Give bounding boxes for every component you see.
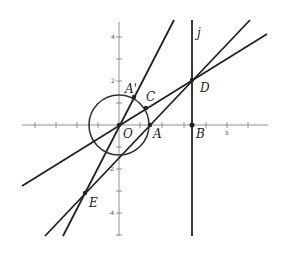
point-e	[83, 191, 87, 195]
label-o: O	[123, 127, 133, 141]
point-d	[190, 78, 194, 82]
point-o	[117, 123, 121, 127]
x-axis	[22, 122, 268, 128]
geometry-diagram: 4 2 -2 -4 5 O A A' C D B E j	[0, 0, 281, 253]
label-c: C	[146, 90, 155, 104]
point-b	[190, 123, 195, 128]
y-tick-label-neg4: -4	[108, 209, 114, 216]
point-c	[144, 106, 148, 110]
y-axis	[116, 22, 122, 236]
label-a: A	[152, 127, 162, 141]
y-tick-label-4: 4	[111, 33, 115, 40]
label-e: E	[88, 196, 98, 210]
y-tick-label-2: 2	[111, 77, 115, 84]
x-tick-label-5: 5	[225, 129, 229, 136]
label-a-prime: A'	[124, 82, 137, 96]
label-j: j	[194, 26, 201, 40]
label-d: D	[199, 81, 210, 95]
line-a-d-e	[45, 20, 250, 236]
label-b: B	[195, 127, 205, 141]
point-a	[148, 123, 152, 127]
line-o-c-d	[22, 34, 267, 186]
